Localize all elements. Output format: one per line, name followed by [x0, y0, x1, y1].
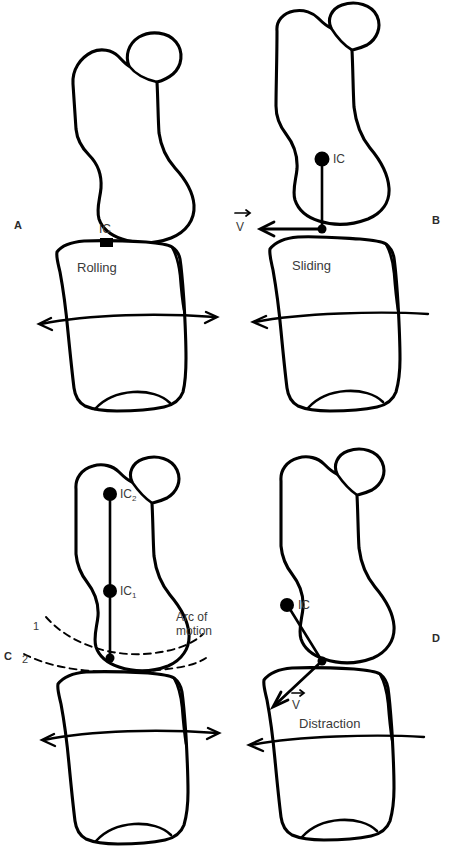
motion-label-b: Sliding — [292, 258, 331, 273]
femur-outline-a — [73, 33, 194, 243]
joint-motion-figure: IC Rolling A IC — [0, 0, 460, 856]
velocity-label-d: V — [292, 698, 300, 712]
ic1-marker-c — [103, 584, 117, 598]
panel-letter-d: D — [432, 632, 440, 644]
tibia-outline-b — [270, 237, 400, 411]
tibia-outline-c — [58, 672, 188, 844]
panel-c: IC2 IC1 1 2 Arc of motion C — [4, 457, 219, 844]
motion-label-a: Rolling — [77, 260, 117, 275]
motion-label-d: Distraction — [299, 716, 360, 731]
arc-of-motion-label-c: Arc of — [176, 610, 208, 624]
ic-marker-d — [280, 598, 294, 612]
velocity-label-b: V — [236, 220, 244, 234]
femur-outline-d — [281, 449, 394, 663]
panel-a: IC Rolling A — [14, 33, 217, 411]
panel-letter-b: B — [432, 214, 440, 226]
arc-number-2-c: 2 — [22, 653, 28, 665]
ic-marker-a — [100, 238, 113, 247]
femur-outline-b — [276, 3, 389, 224]
panel-d: IC V Distraction D — [249, 449, 440, 840]
femur-outline-c — [76, 457, 189, 671]
ic-label-b: IC — [333, 152, 345, 166]
arc-of-motion-label2-c: motion — [176, 624, 212, 638]
panel-letter-c: C — [4, 650, 12, 662]
panel-letter-a: A — [14, 219, 22, 231]
ic-marker-b — [315, 152, 330, 167]
tibia-outline-d — [264, 668, 394, 840]
arc-number-1-c: 1 — [33, 620, 39, 632]
ic-label-d: IC — [298, 598, 310, 612]
panel-b: IC V Sliding B — [235, 3, 440, 411]
ic2-marker-c — [103, 487, 117, 501]
contact-point-c — [106, 654, 115, 663]
ic-label-a: IC — [99, 222, 111, 236]
